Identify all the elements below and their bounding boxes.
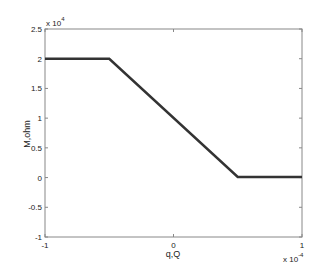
x-axis-label: q,Q: [166, 249, 181, 259]
svg-text:1.5: 1.5: [31, 84, 43, 93]
y-axis-label: M,ohm: [22, 120, 32, 148]
svg-text:1: 1: [38, 114, 43, 123]
svg-text:1: 1: [300, 241, 305, 250]
svg-text:0: 0: [38, 174, 43, 183]
svg-text:0.5: 0.5: [31, 144, 43, 153]
svg-text:-1: -1: [41, 241, 49, 250]
x-multiplier: x 10-4: [283, 252, 304, 264]
svg-text:-0.5: -0.5: [28, 203, 42, 212]
svg-text:2.5: 2.5: [31, 25, 43, 34]
svg-text:2: 2: [38, 55, 43, 64]
plot-area: [45, 29, 302, 237]
y-multiplier: x 104: [46, 16, 65, 28]
chart: -1-0.500.511.522.5 -101 M,ohm q,Q x 104 …: [0, 0, 320, 277]
